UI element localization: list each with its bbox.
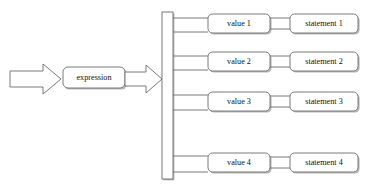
block-arrow-right-icon (10, 64, 61, 94)
dispatch-block-arrow (125, 65, 162, 93)
expression-node-label: expression (76, 73, 111, 82)
statement-box-label: statement 3 (305, 97, 343, 106)
block-arrow-right-icon (125, 65, 162, 93)
diagram-canvas: expression value 1 statement 1 (0, 0, 372, 196)
branch-row: value 4 statement 4 (173, 153, 360, 174)
branch-row: value 3 statement 3 (173, 92, 360, 113)
statement-box-label: statement 2 (305, 57, 343, 66)
branch-row: value 1 statement 1 (173, 14, 360, 35)
statement-box-label: statement 1 (305, 19, 343, 28)
statement-box-label: statement 4 (305, 158, 343, 167)
dispatch-bar-body (162, 12, 173, 179)
value-box-label: value 4 (227, 158, 251, 167)
switch-statement-diagram: expression value 1 statement 1 (0, 0, 372, 196)
value-box-label: value 1 (227, 19, 251, 28)
input-block-arrow (10, 64, 61, 94)
value-box-label: value 3 (227, 97, 251, 106)
expression-node: expression (63, 67, 127, 90)
branch-row: value 2 statement 2 (173, 52, 360, 73)
dispatch-bar (162, 12, 174, 180)
value-box-label: value 2 (227, 57, 251, 66)
